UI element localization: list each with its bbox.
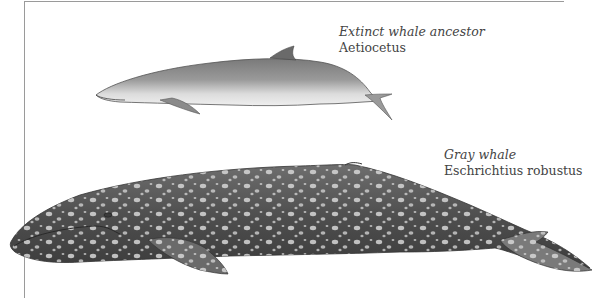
gray-whale-label: Gray whale Eschrichtius robustus bbox=[444, 147, 583, 179]
gray-whale bbox=[10, 163, 592, 274]
aetiocetus-whale bbox=[96, 46, 392, 120]
ancestor-scientific-name: Aetiocetus bbox=[339, 40, 485, 56]
ancestor-common-name: Extinct whale ancestor bbox=[339, 24, 485, 40]
whale-illustration: Extinct whale ancestor Aetiocetus Gray w… bbox=[0, 0, 610, 298]
gray-whale-scientific-name: Eschrichtius robustus bbox=[444, 163, 583, 179]
gray-whale-common-name: Gray whale bbox=[444, 147, 583, 163]
ancestor-label: Extinct whale ancestor Aetiocetus bbox=[339, 24, 485, 56]
